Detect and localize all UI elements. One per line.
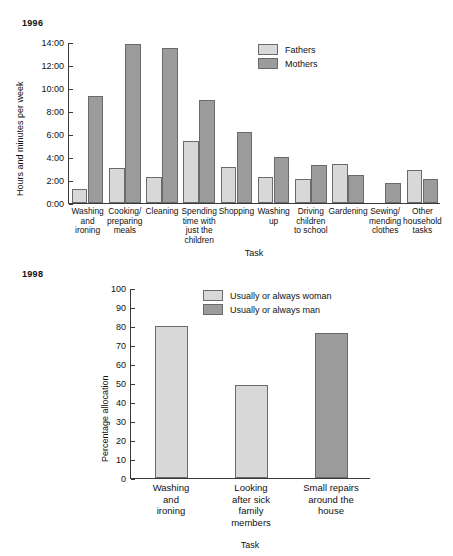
chart-1998-x-axis-title: Task: [130, 540, 370, 550]
chart-1998-y-tick: 50: [116, 379, 131, 389]
chart-1998-y-tick: 70: [116, 341, 131, 351]
chart-1996-y-tick: 10:00: [41, 84, 69, 94]
legend-label-fathers: Fathers: [285, 45, 316, 55]
chart-1996-legend: Fathers Mothers: [258, 44, 318, 72]
chart-1996-y-tick: 6:00: [46, 130, 69, 140]
chart-1998-y-tick: 100: [111, 284, 131, 294]
chart-1996-bar: [407, 170, 423, 203]
chart-1996-bar: [311, 165, 327, 203]
chart-1998-bar: [315, 333, 348, 478]
chart-1998-x-tick: Small repairs around the house: [284, 478, 378, 517]
chart-1996-bar: [72, 189, 88, 203]
legend-label-woman: Usually or always woman: [230, 291, 332, 301]
chart-1996-bar: [88, 96, 104, 203]
chart-1998-y-tick: 10: [116, 455, 131, 465]
chart-1996-bar: [258, 177, 274, 203]
chart-1996-bar: [295, 179, 311, 203]
legend-swatch-fathers: [258, 44, 278, 55]
chart-1996-bar: [125, 44, 141, 203]
chart-1996-plot-area: 0:002:004:006:008:0010:0012:0014:00Washi…: [68, 43, 440, 204]
chart-1998-y-tick: 80: [116, 322, 131, 332]
legend-item-mothers: Mothers: [258, 58, 318, 69]
chart-1998-y-tick: 20: [116, 436, 131, 446]
chart-1996-bar: [348, 175, 364, 203]
chart-1996-bar: [423, 179, 439, 203]
chart-1996-bar: [162, 48, 178, 203]
chart-1996-bar: [109, 168, 125, 203]
chart-1998: 1998 Percentage allocation 0102030405060…: [0, 262, 453, 556]
chart-1998-y-axis-label: Percentage allocation: [100, 375, 110, 462]
chart-1998-y-tick: 40: [116, 398, 131, 408]
chart-1996-x-tick: Other household tasks: [399, 203, 446, 236]
chart-1996: 1996 Hours and minutes per week 0:002:00…: [0, 0, 453, 262]
legend-item-fathers: Fathers: [258, 44, 318, 55]
chart-1996-year-label: 1996: [22, 18, 43, 28]
chart-1998-year-label: 1998: [22, 269, 43, 279]
chart-1996-bar: [274, 157, 290, 203]
legend-swatch-mothers: [258, 58, 278, 69]
chart-1996-bar: [221, 167, 237, 203]
chart-1998-y-tick: 90: [116, 303, 131, 313]
chart-1996-bar: [332, 164, 348, 203]
chart-1996-y-tick: 2:00: [46, 176, 69, 186]
chart-1996-y-tick: 8:00: [46, 107, 69, 117]
chart-1996-bar: [183, 141, 199, 203]
chart-1996-x-axis-title: Task: [68, 248, 440, 258]
chart-1996-bar: [146, 177, 162, 203]
chart-1998-y-tick: 30: [116, 417, 131, 427]
chart-1996-bar: [385, 183, 401, 203]
chart-1998-legend: Usually or always woman Usually or alway…: [203, 290, 332, 318]
chart-1996-y-tick: 12:00: [41, 61, 69, 71]
legend-swatch-man: [203, 304, 223, 315]
chart-1996-y-axis-label: Hours and minutes per week: [15, 81, 25, 196]
chart-1998-y-tick: 60: [116, 360, 131, 370]
chart-1998-bar: [235, 385, 268, 478]
legend-label-man: Usually or always man: [230, 305, 320, 315]
chart-1998-bar: [155, 326, 188, 478]
legend-item-woman: Usually or always woman: [203, 290, 332, 301]
chart-1996-bar: [199, 100, 215, 204]
chart-1996-y-tick: 14:00: [41, 38, 69, 48]
chart-1996-bar: [237, 132, 253, 203]
chart-1996-y-tick: 4:00: [46, 153, 69, 163]
legend-swatch-woman: [203, 290, 223, 301]
legend-item-man: Usually or always man: [203, 304, 332, 315]
legend-label-mothers: Mothers: [285, 59, 318, 69]
